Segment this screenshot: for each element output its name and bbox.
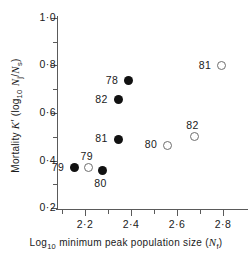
data-point-marker	[98, 166, 107, 175]
y-axis-title-sub-j: j	[15, 77, 24, 79]
y-axis-title-var-k: K	[9, 122, 21, 130]
y-axis-title-sub-s: s	[15, 62, 24, 66]
y-tick-minor	[53, 89, 57, 90]
x-tick-minor	[200, 210, 201, 214]
x-tick-minor	[154, 210, 155, 214]
x-tick-minor	[108, 210, 109, 214]
data-point-label: 82	[95, 93, 107, 105]
y-axis-title-slash: /	[10, 74, 21, 77]
data-point-label: 80	[145, 138, 157, 150]
data-point-marker	[84, 163, 93, 172]
y-axis-title: Mortality K′ (log10 Nj/Ns)	[9, 16, 24, 216]
y-tick-minor	[53, 137, 57, 138]
x-tick-major	[177, 210, 178, 216]
x-tick-label: 2·8	[203, 218, 243, 230]
scatter-plot-figure: 1·00·80·60·40·2 2·22·42·62·8 78828179808…	[0, 0, 252, 255]
data-point-label: 82	[186, 119, 198, 131]
x-tick-label: 2·4	[111, 218, 151, 230]
data-point-marker	[163, 141, 172, 150]
data-point-label: 79	[52, 161, 64, 173]
data-point-marker	[190, 132, 199, 141]
data-point-label: 79	[80, 150, 92, 162]
y-tick-minor	[53, 42, 57, 43]
y-tick-minor	[53, 184, 57, 185]
data-point-label: 78	[106, 74, 118, 86]
x-tick-label: 2·2	[65, 218, 105, 230]
data-point-marker	[114, 135, 123, 144]
data-point-marker	[124, 76, 133, 85]
y-axis-title-prefix: Mortality	[10, 129, 21, 173]
x-axis-title-middle: minimum peak population size (	[56, 237, 209, 248]
data-point-marker	[217, 61, 226, 70]
y-axis-title-var-nj: N	[9, 79, 21, 87]
x-tick-major	[85, 210, 86, 216]
data-point-label: 81	[95, 132, 107, 144]
x-tick-minor	[62, 210, 63, 214]
x-axis-title: Log10 minimum peak population size (Nf)	[0, 236, 252, 251]
x-axis-title-prefix: Log	[30, 237, 48, 248]
data-point-label: 81	[199, 59, 211, 71]
data-point-marker	[114, 95, 123, 104]
data-point-marker	[70, 163, 79, 172]
x-tick-major	[131, 210, 132, 216]
data-point-label: 80	[94, 177, 106, 189]
y-axis-title-suffix: )	[10, 58, 21, 62]
y-axis-title-var-ns: N	[9, 66, 21, 74]
y-axis-line	[57, 16, 58, 210]
y-axis-title-sub-10: 10	[15, 89, 24, 98]
x-tick-major	[223, 210, 224, 216]
x-axis-title-sub-10: 10	[47, 242, 56, 251]
x-tick-label: 2·6	[157, 218, 197, 230]
y-axis-title-prime: ′	[10, 119, 21, 121]
y-axis-title-mid: (log	[10, 98, 21, 119]
x-axis-title-suffix: )	[219, 237, 223, 248]
